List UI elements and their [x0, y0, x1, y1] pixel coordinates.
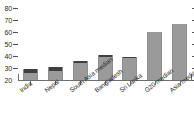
- y-tick-label-70: 70: [0, 17, 12, 24]
- y-tick-mark-right-20: [192, 80, 194, 81]
- y-tick-mark-right-40: [192, 56, 194, 57]
- bar-g20-median[interactable]: [147, 32, 162, 80]
- bar-cap-south-asia-median: [74, 61, 87, 63]
- bar-chart: 80 70 60 50 40 30 20 IndiaNepalSouth Asi…: [0, 0, 194, 135]
- y-tick-mark-right-70: [192, 20, 194, 21]
- bar-cap-india: [24, 69, 37, 73]
- y-tick-label-60: 60: [0, 29, 12, 36]
- y-tick-label-50: 50: [0, 41, 12, 48]
- y-tick-label-20: 20: [0, 77, 12, 84]
- y-tick-mark-right-50: [192, 44, 194, 45]
- y-tick-label-40: 40: [0, 53, 12, 60]
- bar-india[interactable]: [23, 69, 38, 80]
- bar-cap-nepal: [49, 67, 62, 71]
- y-tick-label-80: 80: [0, 5, 12, 12]
- bar-cap-sri-lanka: [123, 57, 136, 59]
- x-axis-label-india: India: [18, 80, 33, 94]
- y-tick-mark-right-80: [192, 8, 194, 9]
- y-tick-label-30: 30: [0, 65, 12, 72]
- y-tick-mark-right-60: [192, 32, 194, 33]
